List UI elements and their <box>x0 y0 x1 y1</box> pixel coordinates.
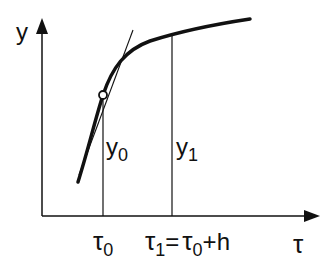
solution-curve <box>78 19 250 182</box>
y0-label: y0 <box>106 133 128 165</box>
tau0-label: τ0 <box>93 226 113 260</box>
tau-axis-arrow-icon <box>304 210 320 222</box>
y-axis-label: y <box>16 18 28 45</box>
y1-label: y1 <box>176 133 198 165</box>
y-axis-arrow-icon <box>36 18 48 34</box>
tau-axis-label: τ <box>293 229 304 259</box>
tau1-equation-label: τ1=τ0+h <box>145 226 230 260</box>
point-y0-marker <box>99 91 107 99</box>
diagram-canvas: y τ y0 y1 τ0 τ1=τ0+h <box>0 0 334 265</box>
